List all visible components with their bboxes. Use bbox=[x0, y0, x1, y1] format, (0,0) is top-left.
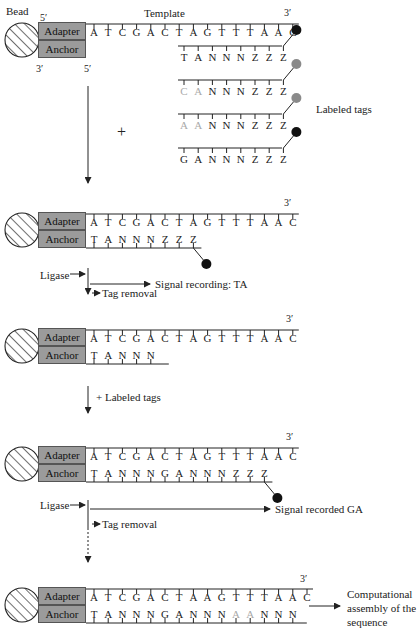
adapter-box: Adapter bbox=[38, 587, 86, 605]
template-base: A bbox=[275, 332, 283, 344]
anchor-box: Anchor bbox=[38, 346, 86, 364]
template-base: T bbox=[247, 450, 254, 462]
three-prime-label-template-4: 3′ bbox=[286, 432, 293, 442]
tag-base: Z bbox=[266, 51, 273, 63]
anchor-base: A bbox=[175, 467, 183, 479]
template-base: G bbox=[204, 216, 212, 228]
labeled-tags-label: Labeled tags bbox=[316, 104, 372, 115]
template-base: G bbox=[133, 332, 141, 344]
template-base: A bbox=[289, 591, 297, 603]
template-base: T bbox=[105, 450, 112, 462]
template-base: C bbox=[289, 216, 296, 228]
tag-removal-label-2: Tag removal bbox=[102, 519, 157, 530]
bead-icon bbox=[5, 447, 39, 481]
template-base: T bbox=[105, 591, 112, 603]
adapter-anchor-block-4: Adapter Anchor bbox=[38, 446, 86, 482]
three-prime-label-anchor: 3′ bbox=[36, 64, 43, 74]
fluorescent-label-dot bbox=[272, 493, 282, 503]
tag-base: N bbox=[237, 153, 245, 165]
anchor-box: Anchor bbox=[38, 464, 86, 482]
anchor-base: Z bbox=[162, 233, 169, 245]
template-base: T bbox=[105, 26, 112, 38]
anchor-box: Anchor bbox=[38, 605, 86, 623]
three-prime-label-template-3: 3′ bbox=[286, 314, 293, 324]
fluorescent-label-dot bbox=[291, 59, 301, 69]
tag-base: N bbox=[223, 153, 231, 165]
ligase-label-2: Ligase bbox=[40, 500, 69, 511]
anchor-base: T bbox=[91, 467, 98, 479]
tag-base: Z bbox=[252, 153, 259, 165]
five-prime-label-anchor: 5′ bbox=[84, 64, 91, 74]
template-base: A bbox=[189, 26, 197, 38]
template-base: C bbox=[161, 332, 168, 344]
template-base: A bbox=[147, 450, 155, 462]
tag-base: N bbox=[208, 153, 216, 165]
template-base: C bbox=[119, 216, 126, 228]
anchor-base: N bbox=[147, 233, 155, 245]
template-base: A bbox=[189, 216, 197, 228]
ligase-label-1: Ligase bbox=[40, 270, 69, 281]
tag-base: N bbox=[223, 85, 231, 97]
template-base: A bbox=[90, 591, 98, 603]
template-base: T bbox=[176, 332, 183, 344]
anchor-base: N bbox=[133, 349, 141, 361]
tag-base: N bbox=[208, 85, 216, 97]
adapter-box: Adapter bbox=[38, 212, 86, 230]
tag-base: Z bbox=[280, 85, 287, 97]
fluorescent-label-dot bbox=[291, 25, 301, 35]
tag-base: A bbox=[194, 119, 202, 131]
anchor-base: T bbox=[91, 233, 98, 245]
anchor-base: A bbox=[104, 608, 112, 620]
anchor-base: N bbox=[147, 467, 155, 479]
template-base: A bbox=[90, 26, 98, 38]
bead-icon bbox=[5, 588, 39, 622]
template-base: T bbox=[233, 450, 240, 462]
adapter-anchor-block-5: Adapter Anchor bbox=[38, 587, 86, 623]
template-base: A bbox=[90, 450, 98, 462]
anchor-base: N bbox=[118, 233, 126, 245]
tag-base: A bbox=[194, 51, 202, 63]
template-base: C bbox=[289, 450, 296, 462]
fluorescent-label-dot bbox=[291, 127, 301, 137]
template-base: T bbox=[218, 332, 225, 344]
template-base: A bbox=[260, 332, 268, 344]
bead-icon bbox=[5, 23, 39, 57]
anchor-base: N bbox=[133, 467, 141, 479]
template-base: T bbox=[261, 591, 268, 603]
anchor-base: A bbox=[104, 349, 112, 361]
adapter-box: Adapter bbox=[38, 446, 86, 464]
anchor-base: Z bbox=[233, 467, 240, 479]
anchor-box: Anchor bbox=[38, 230, 86, 248]
template-base: G bbox=[133, 216, 141, 228]
fluorescent-label-dot bbox=[201, 259, 211, 269]
tag-base: A bbox=[194, 85, 202, 97]
tag-base: G bbox=[180, 153, 188, 165]
anchor-base: A bbox=[104, 233, 112, 245]
template-base: C bbox=[119, 591, 126, 603]
fluorescent-label-dot bbox=[291, 93, 301, 103]
template-base: A bbox=[90, 216, 98, 228]
bead-icon bbox=[5, 329, 39, 363]
template-base: C bbox=[289, 332, 296, 344]
signal-recorded-ga-label: Signal recorded GA bbox=[275, 504, 363, 515]
template-base: A bbox=[147, 216, 155, 228]
tag-base: C bbox=[180, 85, 187, 97]
anchor-base: N bbox=[189, 608, 197, 620]
plus-labeled-tags-label: + Labeled tags bbox=[96, 392, 161, 403]
template-base: C bbox=[161, 450, 168, 462]
template-base: T bbox=[247, 591, 254, 603]
template-base: A bbox=[147, 591, 155, 603]
plus-sign: + bbox=[117, 124, 126, 140]
template-base: T bbox=[233, 332, 240, 344]
tag-base: A bbox=[194, 153, 202, 165]
template-base: T bbox=[218, 216, 225, 228]
computational-assembly-line-2: assembly of the bbox=[347, 603, 416, 614]
tag-base: N bbox=[237, 85, 245, 97]
anchor-base: Z bbox=[261, 467, 268, 479]
anchor-base: Z bbox=[176, 233, 183, 245]
tag-base: Z bbox=[252, 119, 259, 131]
anchor-base: N bbox=[118, 608, 126, 620]
anchor-base: A bbox=[175, 608, 183, 620]
tag-base: N bbox=[223, 119, 231, 131]
template-base: A bbox=[147, 332, 155, 344]
